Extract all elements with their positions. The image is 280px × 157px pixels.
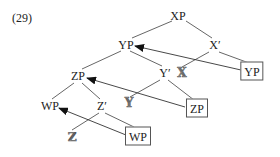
node-yp: YP <box>118 39 133 51</box>
node-z-bar: Z′ <box>97 100 107 112</box>
node-wp-moved-box: WP <box>125 127 151 146</box>
edge-zbar-zhead <box>72 113 99 130</box>
arrow-yp-movement <box>135 46 241 70</box>
edge-yp-ybar <box>130 51 162 66</box>
node-y-head: 𝕐 <box>125 97 134 109</box>
node-y-bar: Y′ <box>159 67 170 79</box>
edge-xp-xbar <box>186 21 212 38</box>
edge-zp-wp <box>52 83 74 99</box>
node-xp: XP <box>170 10 185 22</box>
node-yp-moved-box: YP <box>240 62 263 81</box>
edge-yp-zp <box>82 51 121 69</box>
node-z-head: ℤ <box>68 131 77 143</box>
example-number: (29) <box>12 12 32 24</box>
node-zp: ZP <box>71 70 85 82</box>
node-x-bar: X′ <box>209 39 220 51</box>
node-zp-moved-box: ZP <box>186 99 208 118</box>
edge-zp-zbar <box>82 83 100 99</box>
edge-xp-yp <box>132 21 172 38</box>
edge-zbar-wpmoved <box>105 113 134 127</box>
edge-ybar-yhead <box>130 80 160 97</box>
node-wp: WP <box>41 100 59 112</box>
node-x-head: 𝕏 <box>177 67 186 79</box>
edge-ybar-zpmoved <box>168 80 194 100</box>
